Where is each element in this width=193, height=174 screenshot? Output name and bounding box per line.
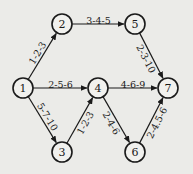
node-label: 5 [132, 18, 139, 31]
node-label: 4 [95, 82, 102, 95]
edge-label-4-7: 4-6-9 [121, 79, 146, 90]
node-2: 2 [52, 14, 72, 34]
edge-label-1-4: 2-5-6 [48, 79, 73, 90]
node-label: 3 [59, 146, 66, 159]
node-label: 1 [20, 82, 27, 95]
node-6: 6 [125, 142, 145, 162]
node-7: 7 [158, 78, 178, 98]
edge-label-1-2: 1-2-3 [26, 40, 48, 67]
node-4: 4 [88, 78, 108, 98]
diagram-svg: 1-2-32-5-65-7-101-2-33-4-52-3-104-6-92-4… [0, 0, 193, 174]
network-diagram: 1-2-32-5-65-7-101-2-33-4-52-3-104-6-92-4… [0, 0, 193, 174]
node-1: 1 [13, 78, 33, 98]
node-label: 7 [165, 82, 172, 95]
edge-label-2-5: 3-4-5 [86, 15, 111, 26]
node-label: 2 [59, 18, 66, 31]
node-label: 6 [132, 146, 139, 159]
edge-label-5-7: 2-3-10 [134, 43, 158, 75]
node-3: 3 [52, 142, 72, 162]
edge-label-4-6: 2-4-6 [100, 110, 122, 137]
node-5: 5 [125, 14, 145, 34]
edge-label-6-7: 2-4.5-6 [144, 105, 169, 140]
